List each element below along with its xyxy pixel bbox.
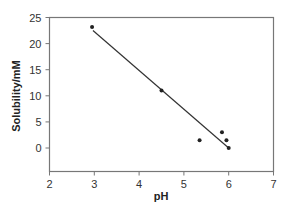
x-tick-label: 2 <box>46 178 52 190</box>
data-point <box>90 25 94 29</box>
y-tick-label: 5 <box>35 116 41 128</box>
data-point <box>227 146 231 150</box>
y-tick-label: 25 <box>29 12 41 24</box>
data-point <box>198 138 202 142</box>
data-point <box>160 89 164 93</box>
x-tick-label: 3 <box>91 178 97 190</box>
y-tick-label: 20 <box>29 38 41 50</box>
y-tick-label: 10 <box>29 90 41 102</box>
y-axis-label: Solubility/mM <box>10 60 22 132</box>
x-tick-label: 6 <box>226 178 232 190</box>
y-tick-label: 15 <box>29 64 41 76</box>
x-axis-label: pH <box>154 190 169 202</box>
plot-frame <box>50 18 274 172</box>
x-axis-ticks: 234567 <box>46 172 276 190</box>
data-point <box>224 138 228 142</box>
x-tick-label: 4 <box>136 178 142 190</box>
data-point <box>220 130 224 134</box>
y-tick-label: 0 <box>35 142 41 154</box>
y-axis-ticks: 0510152025 <box>29 12 49 155</box>
solubility-vs-ph-chart: 0510152025 234567 pH Solubility/mM <box>0 0 288 212</box>
x-tick-label: 5 <box>181 178 187 190</box>
x-tick-label: 7 <box>270 178 276 190</box>
